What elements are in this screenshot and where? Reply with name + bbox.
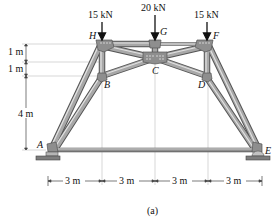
dim-label-1m-top: 1 m: [8, 47, 23, 57]
gusset-C: [143, 52, 167, 64]
joint-label-C: C: [152, 66, 159, 76]
dim-label-3m-1: 3 m: [65, 176, 80, 186]
joint-label-E: E: [265, 146, 271, 156]
dim-label-3m-4: 3 m: [226, 176, 241, 186]
joint-label-D: D: [198, 80, 205, 90]
truss-diagram: [0, 0, 279, 223]
dim-label-1m-mid: 1 m: [8, 64, 23, 74]
joint-label-G: G: [160, 27, 167, 37]
joint-label-A: A: [37, 140, 43, 150]
vertical-dimension: [25, 44, 28, 150]
support-A: [36, 152, 60, 160]
dim-label-3m-2: 3 m: [119, 176, 134, 186]
load-label-H: 15 kN: [88, 10, 113, 20]
figure-caption: (a): [147, 206, 158, 216]
joint-label-F: F: [213, 31, 219, 41]
load-label-G: 20 kN: [141, 3, 166, 13]
joint-label-B: B: [104, 80, 110, 90]
gusset-A: [47, 142, 58, 152]
joint-label-H: H: [89, 31, 96, 41]
dim-label-4m: 4 m: [18, 109, 33, 119]
gusset-E: [252, 142, 262, 152]
dim-label-3m-3: 3 m: [172, 176, 187, 186]
load-label-F: 15 kN: [194, 10, 219, 20]
